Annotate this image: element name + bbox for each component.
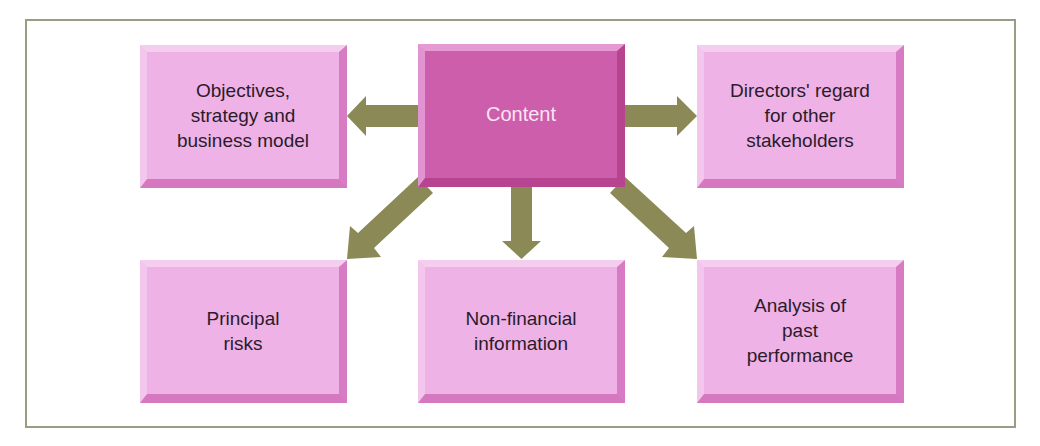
node-past-performance: Analysis of past performance: [697, 260, 904, 403]
arrow-down-left-icon: [347, 177, 433, 259]
node-objectives: Objectives, strategy and business model: [140, 45, 347, 188]
node-label: Principal risks: [207, 306, 280, 356]
node-non-financial: Non-financial information: [418, 260, 625, 403]
node-directors: Directors' regard for other stakeholders: [697, 45, 904, 188]
node-content-center: Content: [418, 44, 625, 187]
node-label: Analysis of past performance: [747, 293, 854, 368]
center-label: Content: [486, 102, 556, 127]
arrow-down-icon: [502, 186, 541, 259]
node-label: Directors' regard for other stakeholders: [730, 78, 870, 153]
arrow-right-icon: [623, 96, 697, 136]
node-principal-risks: Principal risks: [140, 260, 347, 403]
node-label: Non-financial information: [466, 306, 577, 356]
arrow-down-right-icon: [610, 177, 697, 259]
arrow-left-icon: [347, 96, 420, 136]
node-label: Objectives, strategy and business model: [177, 78, 309, 153]
